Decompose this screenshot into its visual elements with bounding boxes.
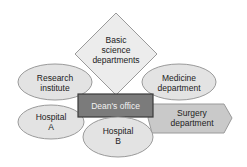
surgery-department-label: Surgery department	[155, 107, 229, 129]
basic-science-line1: Basic	[106, 35, 127, 45]
hospital-a-line1: Hospital	[36, 112, 67, 122]
hospital-b-line2: B	[115, 136, 121, 146]
research-institute-label: Research institute	[22, 72, 88, 94]
medicine-department-label: Medicine department	[146, 72, 212, 94]
hospital-b-label: Hospital B	[86, 125, 150, 147]
hospital-b-line1: Hospital	[103, 126, 134, 136]
research-institute-line2: institute	[40, 83, 69, 93]
medicine-department-line2: department	[158, 83, 201, 93]
basic-science-line2: science	[102, 45, 131, 55]
basic-science-label: Basic science departments	[85, 33, 147, 67]
hospital-a-line2: A	[48, 122, 54, 132]
hospital-a-label: Hospital A	[20, 111, 82, 133]
medicine-department-line1: Medicine	[162, 73, 196, 83]
research-institute-line1: Research	[37, 73, 73, 83]
surgery-department-line1: Surgery	[177, 108, 207, 118]
deans-office-label: Dean's office	[78, 94, 153, 117]
basic-science-line3: departments	[92, 55, 139, 65]
surgery-department-line2: department	[171, 118, 214, 128]
